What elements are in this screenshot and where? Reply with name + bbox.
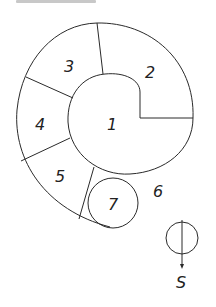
region-label-3: 3: [64, 57, 74, 76]
spiral-diagram: 1 2 3 4 5 6 7 S: [0, 0, 216, 307]
region-label-4: 4: [35, 115, 45, 134]
region-label-5: 5: [55, 167, 65, 186]
region-label-2: 2: [145, 63, 155, 82]
divider-4-5: [21, 138, 70, 161]
arrow-down-icon: [180, 264, 184, 269]
region-label-6: 6: [153, 182, 163, 201]
inner-spiral-loop: [68, 74, 193, 174]
region-label-1: 1: [107, 115, 117, 134]
region-label-7: 7: [108, 195, 119, 214]
divider-2-3: [97, 23, 103, 74]
compass-direction-label: S: [176, 273, 186, 292]
divider-3-4: [26, 77, 73, 98]
divider-5-6: [79, 167, 94, 219]
